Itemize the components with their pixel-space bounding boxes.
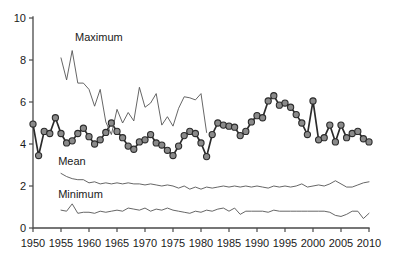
data-point-marker <box>192 130 198 136</box>
data-point-marker <box>159 142 165 148</box>
data-point-marker <box>237 133 243 139</box>
data-point-marker <box>97 137 103 143</box>
x-axis-tick-label: 1960 <box>77 237 101 249</box>
x-axis-tick-label: 1970 <box>133 237 157 249</box>
data-point-marker <box>86 134 92 140</box>
data-point-marker <box>209 131 215 137</box>
data-point-marker <box>52 115 58 121</box>
series-label-mean: Mean <box>58 155 86 167</box>
data-point-marker <box>332 139 338 145</box>
data-point-marker <box>148 131 154 137</box>
data-point-marker <box>265 98 271 104</box>
y-axis-tick-label: 8 <box>20 54 26 66</box>
series-line-mean <box>61 173 369 189</box>
data-point-marker <box>271 93 277 99</box>
data-point-marker <box>131 146 137 152</box>
y-axis-tick-label: 6 <box>20 96 26 108</box>
chart-container: 0246810195019551960196519701975198019851… <box>0 0 408 261</box>
data-point-marker <box>103 129 109 135</box>
data-point-marker <box>304 131 310 137</box>
data-point-marker <box>36 152 42 158</box>
data-point-marker <box>92 141 98 147</box>
x-axis-tick-label: 1980 <box>189 237 213 249</box>
x-axis-tick-label: 1990 <box>245 237 269 249</box>
y-axis-tick-label: 0 <box>20 222 26 234</box>
y-axis-tick-label: 4 <box>20 138 26 150</box>
data-point-marker <box>142 137 148 143</box>
y-axis-tick-label: 2 <box>20 180 26 192</box>
series-label-maximum: Maximum <box>75 31 123 43</box>
data-point-marker <box>114 128 120 134</box>
series-label-minimum: Minimum <box>58 188 103 200</box>
series-line-maximum <box>61 51 207 135</box>
y-axis-tick-label: 10 <box>14 12 26 24</box>
data-point-marker <box>58 130 64 136</box>
data-point-marker <box>176 143 182 149</box>
data-point-marker <box>248 119 254 125</box>
data-point-marker <box>47 130 53 136</box>
data-point-marker <box>344 135 350 141</box>
line-chart: 0246810195019551960196519701975198019851… <box>0 0 408 261</box>
series-line-minimum <box>61 204 369 219</box>
data-point-marker <box>355 128 361 134</box>
data-point-marker <box>204 154 210 160</box>
data-point-marker <box>75 130 81 136</box>
data-point-marker <box>327 122 333 128</box>
data-point-marker <box>260 115 266 121</box>
data-point-marker <box>243 128 249 134</box>
data-point-marker <box>198 140 204 146</box>
x-axis-tick-label: 2000 <box>301 237 325 249</box>
x-axis-tick-label: 1955 <box>49 237 73 249</box>
data-point-marker <box>288 104 294 110</box>
data-point-marker <box>164 147 170 153</box>
data-point-marker <box>366 139 372 145</box>
x-axis-tick-label: 2005 <box>329 237 353 249</box>
data-point-marker <box>321 135 327 141</box>
x-axis-tick-label: 1975 <box>161 237 185 249</box>
x-axis-tick-label: 1985 <box>217 237 241 249</box>
data-point-marker <box>338 122 344 128</box>
data-point-marker <box>120 135 126 141</box>
x-axis-tick-label: 1950 <box>21 237 45 249</box>
x-axis-tick-label: 1995 <box>273 237 297 249</box>
data-point-marker <box>299 120 305 126</box>
x-axis-tick-label: 1965 <box>105 237 129 249</box>
data-point-marker <box>293 112 299 118</box>
data-point-marker <box>181 133 187 139</box>
data-point-marker <box>282 100 288 106</box>
data-point-marker <box>69 138 75 144</box>
x-axis-tick-label: 2010 <box>357 237 381 249</box>
data-point-marker <box>310 98 316 104</box>
data-point-marker <box>232 124 238 130</box>
data-point-marker <box>170 152 176 158</box>
data-point-marker <box>30 121 36 127</box>
data-point-marker <box>80 125 86 131</box>
